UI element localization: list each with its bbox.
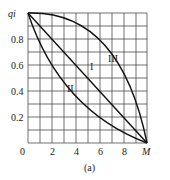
y-tick-0.8: 0.8: [11, 34, 24, 45]
curve-II-label: II: [67, 83, 74, 94]
y-tick-0.2: 0.2: [11, 112, 24, 123]
figure-caption: (a): [84, 162, 95, 174]
x-tick-4: 4: [74, 146, 79, 157]
x-tick-8: 8: [122, 146, 127, 157]
curve-III-label: III: [108, 53, 118, 64]
y-tick-0.6: 0.6: [11, 60, 24, 71]
x-tick-M: M: [141, 146, 151, 157]
y-tick-qi: qi: [8, 8, 16, 19]
x-tick-2: 2: [50, 146, 55, 157]
x-tick-6: 6: [98, 146, 103, 157]
y-tick-0.4: 0.4: [11, 86, 24, 97]
curve-I-label: I: [90, 61, 93, 72]
chart-figure: I II III qi 0.8 0.6 0.4 0.2 0 2 4 6 8 M …: [0, 0, 170, 180]
x-tick-0: 0: [20, 146, 25, 157]
